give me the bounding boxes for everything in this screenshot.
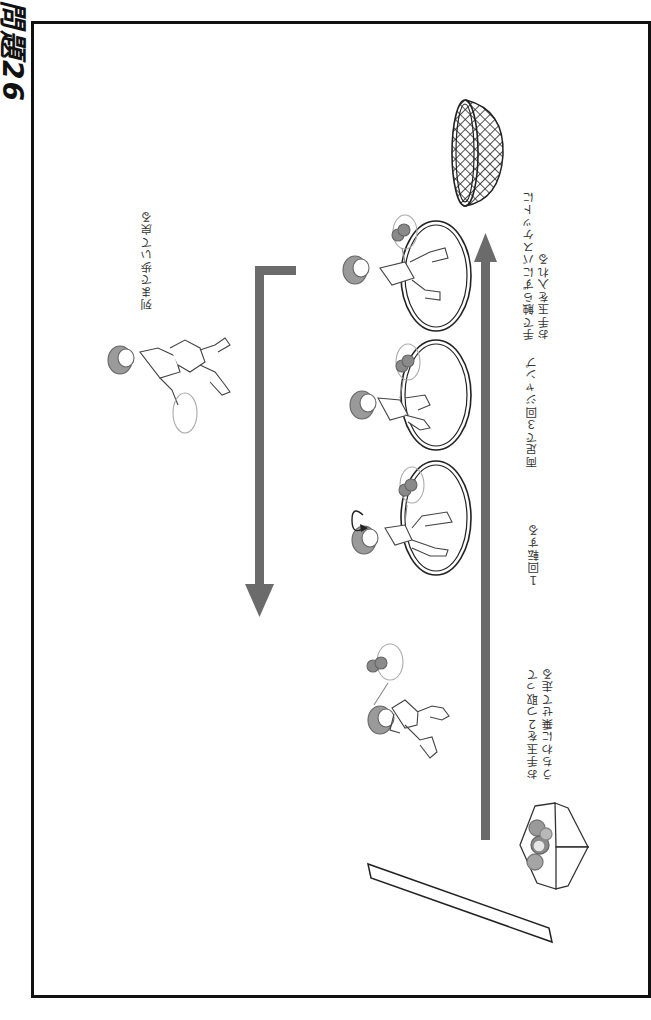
start-line1: お手玉を２つ取って [526,667,540,780]
basket-instruction-line2: お手玉を入れる [537,253,551,341]
start-line2: うちわに乗せて走る [541,667,555,780]
label-basket-instruction: 手で触らずにバスケットに お手玉を入れる [522,190,552,340]
label-jump: 両足で３回ジャンプ [525,355,540,468]
start-line [368,864,552,942]
main-arrow-icon [474,233,497,840]
label-return-walk: 列まで歩いて戻る [140,210,155,310]
child-running-figure [367,644,449,758]
child-stepping-figure [343,215,448,300]
label-spin: １回転する [527,523,542,586]
beanbag-box-icon [520,803,588,889]
basket-icon [452,100,503,206]
basket-instruction-line1: 手で触らずにバスケットに [522,190,536,340]
child-jumping-figure [350,344,430,430]
label-start: お手玉を２つ取って うちわに乗せて走る [526,667,556,780]
return-arrow-icon [245,266,296,617]
child-walking-back-figure [108,338,230,433]
